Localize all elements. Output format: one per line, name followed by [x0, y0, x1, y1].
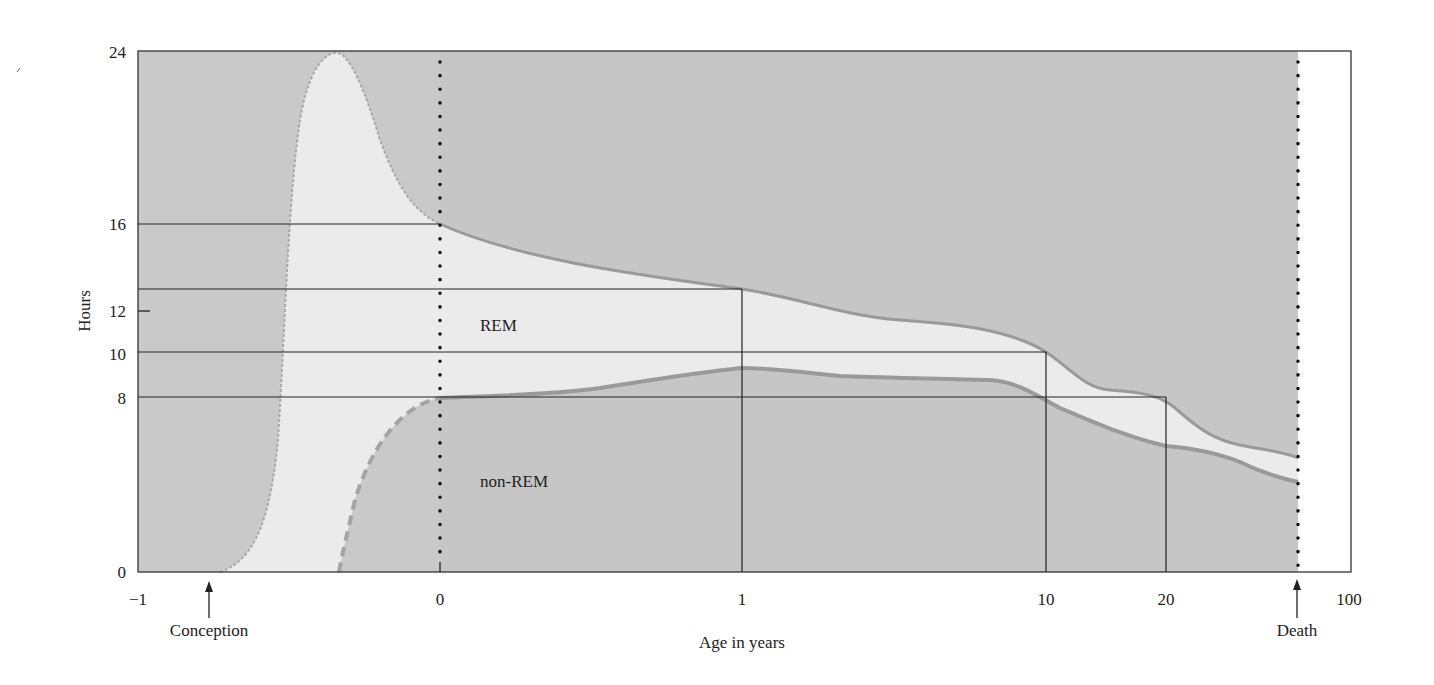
y-tick-label-8: 8 [118, 389, 127, 408]
x-tick-label-1: 1 [738, 590, 747, 609]
y-tick-label-12: 12 [109, 302, 126, 321]
y-axis-title: Hours [75, 290, 94, 332]
y-tick-label-16: 16 [109, 215, 126, 234]
x-axis-title: Age in years [699, 633, 785, 652]
death-arrow-icon [1293, 579, 1301, 590]
x-tick-label-20: 20 [1158, 590, 1175, 609]
y-tick-label-10: 10 [109, 345, 126, 364]
sleep-across-lifespan-chart: 24 16 12 10 8 0 Hours −1 0 1 10 20 100 A… [0, 0, 1434, 685]
non-rem-region-label: non-REM [480, 472, 548, 491]
after-death-region [1298, 51, 1351, 572]
death-label: Death [1277, 621, 1318, 640]
y-tick-label-0: 0 [118, 563, 127, 582]
x-axis: −1 0 1 10 20 100 Age in years [129, 562, 1362, 652]
y-tick-label-24: 24 [109, 43, 127, 62]
conception-label: Conception [170, 621, 249, 640]
stray-mark [17, 68, 20, 72]
x-tick-label-0: 0 [436, 590, 445, 609]
rem-region-label: REM [480, 316, 517, 335]
x-tick-label-100: 100 [1336, 590, 1362, 609]
conception-arrow-icon [205, 581, 213, 592]
plot-area [138, 51, 1351, 572]
x-tick-label-minus-1: −1 [129, 590, 147, 609]
x-tick-label-10: 10 [1038, 590, 1055, 609]
